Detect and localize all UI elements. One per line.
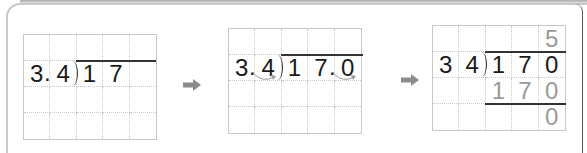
grid-cell: [282, 81, 308, 107]
division-grid-step-3: 5341701700: [432, 25, 566, 131]
grid-cell: 5: [539, 26, 565, 52]
grid-cell: [308, 29, 334, 55]
frame-right-edge: [574, 4, 583, 153]
grid-cell: [255, 29, 281, 55]
division-grid-step-1: 3417: [23, 34, 157, 140]
grid-cell: [335, 107, 361, 133]
grid-cell: 0: [539, 78, 565, 104]
grid-cell: [103, 87, 129, 113]
grid-cell: 1: [486, 78, 512, 104]
grid-cell: [103, 113, 129, 139]
grid-cell: [335, 29, 361, 55]
grid-cell: 3: [433, 52, 459, 78]
grid-cell: [486, 104, 512, 130]
grid-cell: [308, 81, 334, 107]
right-arrow-icon: [401, 74, 419, 86]
grid-cell: [282, 107, 308, 133]
grid-cell: [512, 104, 538, 130]
decimal-shift-arrow-icon: [253, 72, 277, 84]
grid-cell: [229, 107, 255, 133]
grid-cell: [459, 26, 485, 52]
decimal-shift-arrow-icon: [333, 72, 357, 84]
grid-cell: 0: [539, 52, 565, 78]
grid-cell: [24, 35, 50, 61]
grid-cell: [255, 107, 281, 133]
decimal-point: .: [44, 61, 51, 85]
grid-cell: [229, 81, 255, 107]
grid-cell: [50, 113, 76, 139]
grid-cell: [130, 113, 156, 139]
grid-cell: [50, 87, 76, 113]
grid-cell: [130, 35, 156, 61]
grid-cell: 1: [282, 55, 308, 81]
grid-cell: [50, 35, 76, 61]
grid-cell: 7: [512, 78, 538, 104]
grid-cell: [255, 81, 281, 107]
grid-cell: 1: [77, 61, 103, 87]
grid-cell: [24, 87, 50, 113]
grid-cell: [433, 26, 459, 52]
grid-cell: 0: [539, 104, 565, 130]
grid-cell: [24, 113, 50, 139]
subtraction-line: [485, 103, 566, 105]
frame-top-shade: [20, 0, 587, 3]
grid-cell: 1: [486, 52, 512, 78]
division-bar: [281, 54, 363, 56]
grid-cell: [229, 29, 255, 55]
grid-cell: [77, 35, 103, 61]
grid-cell: [130, 61, 156, 87]
grid-cell: [433, 104, 459, 130]
right-arrow-icon: [183, 79, 201, 91]
grid-cell: [512, 26, 538, 52]
grid-cell: 7: [103, 61, 129, 87]
grid-cell: [77, 87, 103, 113]
grid-cell: 7: [512, 52, 538, 78]
grid-cell: [459, 104, 485, 130]
grid-cell: [459, 78, 485, 104]
grid-cell: [433, 78, 459, 104]
grid-cell: [130, 87, 156, 113]
grid-cell: [335, 81, 361, 107]
grid-cell: [282, 29, 308, 55]
division-bar: [485, 51, 566, 53]
grid-cell: [77, 113, 103, 139]
division-bar: [76, 60, 156, 62]
grid-cell: [308, 107, 334, 133]
grid-cell: [103, 35, 129, 61]
grid-cell: [486, 26, 512, 52]
